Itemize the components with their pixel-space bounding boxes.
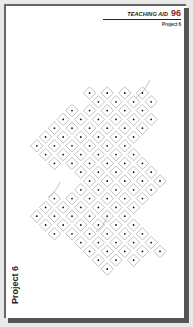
pattern-dot: [62, 154, 64, 156]
pattern-dot: [106, 233, 108, 235]
pattern-dot: [159, 251, 161, 253]
pattern-dot: [142, 163, 144, 165]
pattern-dot: [71, 110, 73, 112]
pattern-dot: [124, 215, 126, 217]
pattern-dot: [98, 119, 100, 121]
pattern-dot: [142, 251, 144, 253]
pattern-dot: [142, 127, 144, 129]
pattern-dot: [142, 180, 144, 182]
pattern-dot: [133, 259, 135, 261]
pattern-dot: [106, 92, 108, 94]
tail-curve: [48, 182, 60, 197]
pattern-dot: [124, 127, 126, 129]
pattern-dot: [89, 180, 91, 182]
pattern-dot: [71, 233, 73, 235]
pattern-dot: [133, 242, 135, 244]
pattern-dot: [80, 242, 82, 244]
pattern-dot: [54, 163, 56, 165]
pattern-dot: [71, 198, 73, 200]
pattern-dot: [133, 207, 135, 209]
pattern-dot: [98, 207, 100, 209]
pattern-dot: [150, 171, 152, 173]
pattern-dot: [80, 136, 82, 138]
pattern-dot: [89, 92, 91, 94]
pattern-dot: [45, 224, 47, 226]
pattern-dot: [115, 259, 117, 261]
pattern-dot: [106, 251, 108, 253]
pattern-dot: [89, 215, 91, 217]
pattern-dot: [106, 127, 108, 129]
pattern-dot: [124, 180, 126, 182]
pattern-dot: [80, 171, 82, 173]
pattern-dot: [133, 101, 135, 103]
pattern-dot: [62, 224, 64, 226]
kolam-pattern: [0, 0, 193, 327]
pattern-dot: [115, 242, 117, 244]
pattern-dot: [62, 119, 64, 121]
pattern-dot: [124, 145, 126, 147]
pattern-dot: [150, 189, 152, 191]
pattern-dot: [133, 171, 135, 173]
pattern-dot: [133, 224, 135, 226]
tail-curve: [96, 216, 108, 232]
pattern-dot: [98, 101, 100, 103]
pattern-dot: [54, 233, 56, 235]
pattern-dot: [54, 145, 56, 147]
pattern-dot: [98, 259, 100, 261]
pattern-dot: [124, 233, 126, 235]
pattern-dot: [98, 136, 100, 138]
pattern-dot: [80, 224, 82, 226]
pattern-dot: [80, 119, 82, 121]
pattern-dot: [89, 110, 91, 112]
pattern-dot: [115, 189, 117, 191]
pattern-dot: [89, 145, 91, 147]
pattern-dot: [98, 242, 100, 244]
pattern-dot: [36, 215, 38, 217]
pattern-dot: [159, 180, 161, 182]
pattern-dot: [142, 198, 144, 200]
pattern-dot: [124, 198, 126, 200]
pattern-dot: [106, 110, 108, 112]
pattern-dot: [133, 189, 135, 191]
pattern-dot: [98, 171, 100, 173]
pattern-dot: [36, 145, 38, 147]
pattern-dot: [89, 251, 91, 253]
pattern-dot: [98, 224, 100, 226]
pattern-dot: [133, 119, 135, 121]
pattern-dot: [80, 189, 82, 191]
pattern-dot: [45, 154, 47, 156]
pattern-dot: [150, 242, 152, 244]
pattern-dot: [106, 163, 108, 165]
pattern-dot: [54, 198, 56, 200]
pattern-dot: [142, 233, 144, 235]
pattern-dot: [133, 136, 135, 138]
pattern-dot: [115, 136, 117, 138]
pattern-dot: [150, 119, 152, 121]
pattern-dot: [45, 136, 47, 138]
pattern-dot: [106, 268, 108, 270]
pattern-dot: [89, 127, 91, 129]
pattern-dot: [124, 92, 126, 94]
pattern-dot: [89, 198, 91, 200]
pattern-dot: [124, 110, 126, 112]
pattern-dot: [71, 215, 73, 217]
pattern-dot: [115, 154, 117, 156]
pattern-dot: [71, 163, 73, 165]
pattern-dot: [106, 180, 108, 182]
pattern-dot: [89, 233, 91, 235]
pattern-dot: [115, 207, 117, 209]
pattern-dot: [124, 251, 126, 253]
pattern-dot: [54, 215, 56, 217]
pattern-dot: [89, 163, 91, 165]
pattern-dot: [62, 207, 64, 209]
pattern-dot: [115, 119, 117, 121]
pattern-dot: [71, 127, 73, 129]
pattern-dot: [80, 154, 82, 156]
pattern-dot: [98, 154, 100, 156]
pattern-dot: [71, 145, 73, 147]
pattern-dot: [62, 136, 64, 138]
pattern-dot: [98, 189, 100, 191]
pattern-dot: [80, 207, 82, 209]
pattern-dot: [115, 171, 117, 173]
pattern-dot: [115, 101, 117, 103]
